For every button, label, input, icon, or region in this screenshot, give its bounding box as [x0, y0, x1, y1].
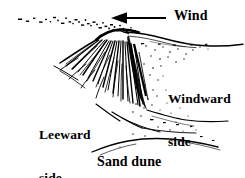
label-windward-side: Windward side [168, 64, 231, 177]
label-sand-dune: Sand dune [97, 155, 161, 170]
label-windward-line1: Windward [168, 92, 231, 106]
label-wind: Wind [174, 9, 208, 24]
sand-dune-diagram: Wind Windward side Leeward side Sand dun… [0, 0, 245, 178]
label-leeward-line2: side [39, 171, 91, 178]
label-leeward-side: Leeward side [39, 100, 91, 178]
label-windward-line2: side [168, 135, 231, 149]
label-leeward-line1: Leeward [39, 128, 91, 142]
